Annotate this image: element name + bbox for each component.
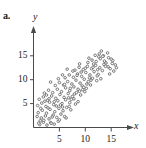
scatter-point (50, 95, 53, 98)
scatter-point (46, 124, 49, 127)
scatter-point (109, 67, 112, 70)
scatter-point (96, 68, 99, 71)
scatter-point (89, 84, 92, 87)
scatter-point (65, 117, 68, 120)
scatter-point (95, 79, 98, 82)
scatter-point (101, 69, 104, 72)
scatter-point (92, 66, 95, 69)
scatter-point (100, 77, 103, 80)
scatter-point (49, 81, 52, 84)
scatter-point (44, 115, 47, 118)
scatter-point (39, 107, 42, 110)
scatter-point (96, 75, 99, 78)
scatter-point (79, 82, 82, 85)
scatter-point (60, 113, 63, 116)
scatter-point (100, 50, 103, 53)
scatter-point (95, 60, 98, 63)
scatter-point (92, 63, 95, 66)
scatter-point (72, 70, 75, 73)
scatter-point (115, 66, 118, 69)
scatter-point (70, 98, 73, 101)
scatter-point (71, 83, 74, 86)
scatter-point (102, 55, 105, 58)
scatter-point (74, 103, 77, 106)
scatter-point (110, 58, 113, 61)
scatter-point (112, 70, 115, 73)
scatter-point (93, 70, 96, 73)
scatter-point (45, 94, 48, 97)
x-axis-label: x (134, 120, 138, 131)
x-tick-label: 15 (104, 134, 118, 144)
scatter-point (56, 88, 59, 91)
scatter-point (85, 71, 88, 74)
y-tick-label: 10 (14, 74, 28, 84)
scatter-point (67, 97, 70, 100)
scatter-point (105, 62, 108, 65)
scatter-point (40, 102, 43, 105)
scatter-point (107, 56, 110, 59)
scatter-point (77, 100, 80, 103)
scatter-point (37, 122, 40, 125)
scatter-point (66, 80, 69, 83)
scatter-point (58, 119, 61, 122)
scatter-point (98, 53, 101, 56)
scatter-point (51, 91, 54, 94)
scatter-point (114, 64, 117, 67)
scatter-point (111, 62, 114, 65)
scatter-point (61, 74, 64, 77)
y-tick-label: 15 (14, 50, 28, 60)
scatter-point (36, 104, 39, 107)
scatter-point (53, 110, 56, 113)
scatter-point (62, 109, 65, 112)
scatter-point (80, 71, 83, 74)
scatter-point (106, 52, 109, 55)
scatter-point (78, 63, 81, 66)
scatter-point (44, 100, 47, 103)
scatter-point (68, 105, 71, 108)
scatter-point (104, 65, 107, 68)
scatter-point (42, 96, 45, 99)
scatter-point (47, 107, 50, 110)
scatter-point (64, 87, 67, 90)
scatter-point (54, 97, 57, 100)
scatter-point (97, 55, 100, 58)
x-tick-label: 10 (78, 134, 92, 144)
scatter-point (63, 83, 66, 86)
y-tick-label: 5 (14, 98, 28, 108)
scatter-point (91, 59, 94, 62)
scatter-point (66, 68, 69, 71)
scatter-point (68, 101, 71, 104)
scatter-point (58, 107, 61, 110)
scatter-point (63, 96, 66, 99)
scatter-point (38, 98, 41, 101)
scatter-point (48, 118, 51, 121)
scatter-point (37, 111, 40, 114)
scatter-point (73, 93, 76, 96)
scatter-point (75, 79, 78, 82)
scatter-point (83, 78, 86, 81)
scatter-point (59, 93, 62, 96)
scatter-point (79, 94, 82, 97)
scatter-point (47, 89, 50, 92)
scatter-point (48, 98, 51, 101)
scatter-point (36, 115, 39, 118)
scatter-point (50, 122, 53, 125)
scatter-point (43, 119, 46, 122)
scatter-point (90, 79, 93, 82)
scatter-point (68, 74, 71, 77)
scatter-point (78, 90, 81, 93)
scatter-point (72, 76, 75, 79)
scatter-point (89, 74, 92, 77)
scatter-point (59, 104, 62, 107)
y-axis-label: y (33, 11, 37, 22)
scatter-point (57, 77, 60, 80)
scatter-point (40, 117, 43, 120)
scatter-point (54, 84, 57, 87)
scatter-point (69, 87, 72, 90)
scatter-point (67, 92, 70, 95)
scatter-point (88, 57, 91, 60)
scatter-point (76, 74, 79, 77)
scatter-plot-figure: a. y x 5101551015 (0, 0, 146, 148)
scatter-point (51, 116, 54, 119)
scatter-point (53, 100, 56, 103)
